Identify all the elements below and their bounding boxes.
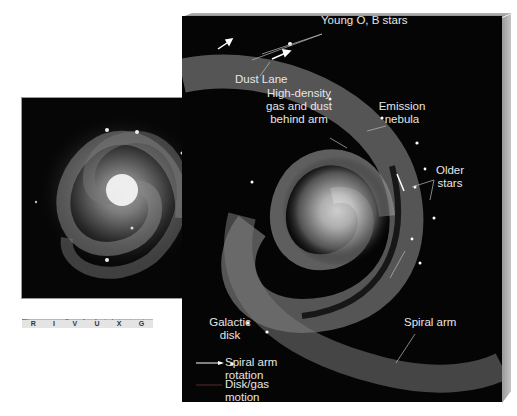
label-emission-nebula: Emission nebula bbox=[372, 100, 432, 126]
spectrum-labels: R I V U X G bbox=[22, 320, 153, 328]
label-young-ob-stars: Young O, B stars bbox=[321, 16, 408, 27]
legend-disk-gas-motion: Disk/gas motion bbox=[225, 378, 269, 402]
spectrum-band-u: U bbox=[94, 320, 99, 328]
spectrum-band-g: G bbox=[139, 320, 144, 328]
label-dust-lane: Dust Lane bbox=[235, 73, 287, 86]
label-older-stars: Older stars bbox=[430, 164, 470, 190]
panel-bevel-right bbox=[502, 14, 511, 403]
spiral-galaxy-illustration bbox=[182, 16, 502, 402]
label-galactic-disk: Galactic disk bbox=[200, 316, 260, 342]
spectrum-band-v: V bbox=[72, 320, 77, 328]
label-spiral-arm: Spiral arm bbox=[404, 316, 456, 329]
spectrum-band-r: R bbox=[31, 320, 36, 328]
spiral-diagram-panel: Young O, B stars Dust Lane High-density … bbox=[182, 16, 502, 402]
spectrum-band-x: X bbox=[117, 320, 122, 328]
label-high-density-gas: High-density gas and dust behind arm bbox=[259, 87, 339, 126]
spectrum-band-i: I bbox=[53, 320, 55, 328]
legend-arrows bbox=[196, 361, 224, 385]
